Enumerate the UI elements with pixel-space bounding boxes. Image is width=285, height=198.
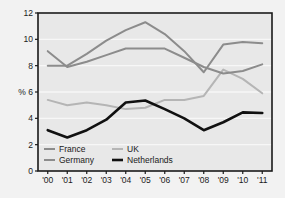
y-tick-label: 8 <box>28 61 33 71</box>
line-chart: 024681012 '00'01'02'03'04'05'06'07'08'09… <box>0 0 285 198</box>
chart-figure: 024681012 '00'01'02'03'04'05'06'07'08'09… <box>0 0 285 198</box>
x-tick-label: '05 <box>140 175 151 185</box>
x-tick-label: '02 <box>81 175 92 185</box>
legend-label-germany: Germany <box>59 155 95 165</box>
x-tick-label: '06 <box>159 175 170 185</box>
legend-label-france: France <box>59 144 86 154</box>
x-tick-label: '08 <box>198 175 209 185</box>
legend-label-netherlands: Netherlands <box>127 155 173 165</box>
x-tick-label: '10 <box>237 175 248 185</box>
y-tick-label: 10 <box>24 34 34 44</box>
x-tick-label: '09 <box>218 175 229 185</box>
legend-label-uk: UK <box>127 144 139 154</box>
y-tick-label: 6 <box>28 87 33 97</box>
x-tick-label: '07 <box>179 175 190 185</box>
y-tick-label: 2 <box>28 140 33 150</box>
x-tick-label: '03 <box>101 175 112 185</box>
x-tick-label: '00 <box>42 175 53 185</box>
x-tick-label: '11 <box>257 175 268 185</box>
y-tick-label: 4 <box>28 113 33 123</box>
y-tick-label: 12 <box>24 8 34 18</box>
x-tick-label: '01 <box>62 175 73 185</box>
y-tick-label: 0 <box>28 166 33 176</box>
y-axis-title: % <box>18 87 26 97</box>
x-tick-label: '04 <box>120 175 131 185</box>
